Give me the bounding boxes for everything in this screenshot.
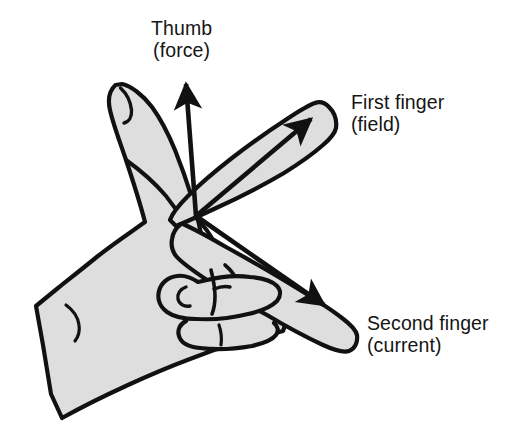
palm-and-thumb-shape [36, 84, 292, 418]
hand-group [36, 84, 292, 418]
label-thumb-line1: Thumb [151, 17, 212, 39]
label-second-finger-line2: (current) [367, 335, 489, 357]
hand-illustration [0, 0, 520, 439]
fourth-finger-curled-shape [178, 321, 277, 349]
label-thumb: Thumb (force) [151, 18, 212, 61]
label-first-finger-line2: (field) [351, 114, 444, 136]
label-thumb-line2: (force) [151, 40, 212, 62]
label-first-finger: First finger (field) [351, 92, 444, 135]
label-second-finger-line1: Second finger [367, 312, 489, 334]
label-second-finger: Second finger (current) [367, 313, 489, 356]
label-first-finger-line1: First finger [351, 91, 444, 113]
fleming-rule-figure: Thumb (force) First finger (field) Secon… [0, 0, 520, 439]
